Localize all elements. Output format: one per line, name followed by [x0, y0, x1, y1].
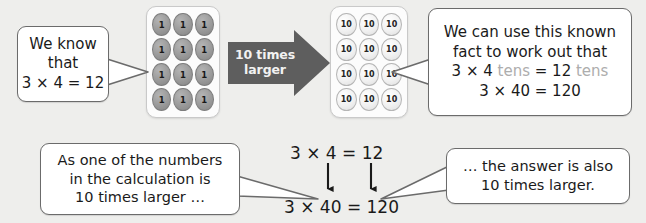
- answer-also-callout-tail: [381, 166, 449, 199]
- we-know-callout-tail: [104, 58, 148, 86]
- we-know-line-1: We know: [29, 35, 97, 55]
- as-one-line-2: in the calculation is: [69, 170, 210, 189]
- top-equation: 3 × 4 = 12: [290, 143, 383, 163]
- known-fact-line-3: 3 × 4 tens = 12 tens: [452, 62, 609, 82]
- we-know-line-3: 3 × 4 = 12: [22, 74, 104, 94]
- known-fact-tens-word-2: tens: [576, 62, 608, 80]
- known-fact-l3-part-a: 3 × 4: [452, 62, 498, 80]
- diagram-canvas: 1 1 1 1 1 1 1 1 1 1 1 1 10 times larger …: [0, 0, 646, 223]
- answer-also-line-1: … the answer is also: [463, 157, 613, 176]
- as-one-line-3: 10 times larger …: [75, 188, 205, 207]
- known-fact-line-1: We can use this known: [444, 23, 616, 43]
- as-one-number-callout-tail: [237, 176, 318, 199]
- known-fact-l3-part-b: = 12: [530, 62, 576, 80]
- known-fact-line-2: fact to work out that: [453, 43, 607, 63]
- known-fact-tens-word-1: tens: [498, 62, 530, 80]
- known-fact-line-4: 3 × 40 = 120: [479, 82, 580, 102]
- we-know-line-2: that: [48, 54, 78, 74]
- bottom-equation: 3 × 40 = 120: [284, 197, 399, 217]
- we-know-that-callout: We know that 3 × 4 = 12: [17, 26, 109, 102]
- known-fact-callout: We can use this known fact to work out t…: [428, 8, 632, 116]
- the-answer-is-also-callout: … the answer is also 10 times larger.: [446, 148, 630, 204]
- as-one-of-the-numbers-callout: As one of the numbers in the calculation…: [40, 143, 240, 215]
- answer-also-line-2: 10 times larger.: [481, 176, 595, 195]
- as-one-line-1: As one of the numbers: [58, 151, 223, 170]
